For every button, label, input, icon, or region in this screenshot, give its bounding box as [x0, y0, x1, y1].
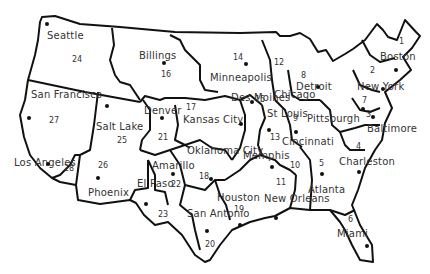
region-number: 24 — [72, 55, 82, 64]
city-marker-icon — [205, 229, 209, 233]
region-number: 18 — [199, 172, 209, 181]
city-label: Des Moines — [231, 92, 290, 103]
region-number: 26 — [98, 161, 108, 170]
city-label: Salt Lake — [96, 121, 143, 132]
region-number: 5 — [319, 159, 324, 168]
city-marker-icon — [239, 122, 243, 126]
region-number: 1 — [399, 37, 404, 46]
region-number: 27 — [49, 116, 59, 125]
city-marker-icon — [250, 100, 254, 104]
region-number: 6 — [348, 215, 353, 224]
region-number: 23 — [158, 210, 168, 219]
city-label: Miami — [337, 228, 368, 239]
city-label: Seattle — [47, 30, 84, 41]
city-marker-icon — [244, 62, 248, 66]
city-marker-icon — [209, 177, 213, 181]
region-number: 16 — [161, 70, 171, 79]
region-number: 25 — [117, 136, 127, 145]
city-label: Boston — [380, 51, 416, 62]
city-label: Kansas City — [183, 114, 243, 125]
city-marker-icon — [96, 176, 100, 180]
city-marker-icon — [270, 165, 274, 169]
city-marker-icon — [320, 172, 324, 176]
city-marker-icon — [45, 22, 49, 26]
city-marker-icon — [381, 87, 385, 91]
city-marker-icon — [371, 115, 375, 119]
region-number: 14 — [233, 53, 243, 62]
region-number: 2 — [370, 66, 375, 75]
city-marker-icon — [361, 107, 365, 111]
city-label: Billings — [139, 50, 176, 61]
city-marker-icon — [160, 116, 164, 120]
city-label: Houston — [217, 192, 260, 203]
region-number: 20 — [205, 240, 215, 249]
region-number: 12 — [274, 58, 284, 67]
region-number: 17 — [186, 103, 196, 112]
city-marker-icon — [357, 170, 361, 174]
city-marker-icon — [394, 68, 398, 72]
city-label: San Francisco — [31, 89, 102, 100]
city-marker-icon — [144, 202, 148, 206]
city-label: Denver — [144, 105, 182, 116]
city-label: Baltimore — [367, 123, 417, 134]
us-outline — [20, 16, 420, 262]
region-number: 7 — [362, 96, 367, 105]
region-number: 4 — [356, 142, 361, 151]
city-label: New Orleans — [264, 193, 330, 204]
city-label: Oklahoma City — [187, 145, 263, 156]
region-number: 8 — [301, 71, 306, 80]
region-number: 13 — [270, 133, 280, 142]
city-label: St Louis — [267, 108, 308, 119]
city-label: Charleston — [339, 156, 395, 167]
city-marker-icon — [316, 85, 320, 89]
city-label: Pittsburgh — [307, 113, 360, 124]
region-number: 10 — [290, 161, 300, 170]
region-number: 21 — [158, 133, 168, 142]
city-marker-icon — [365, 244, 369, 248]
city-marker-icon — [27, 116, 31, 120]
city-marker-icon — [274, 216, 278, 220]
city-marker-icon — [238, 223, 242, 227]
city-marker-icon — [105, 104, 109, 108]
region-number: 11 — [276, 178, 286, 187]
city-marker-icon — [46, 162, 50, 166]
city-marker-icon — [162, 61, 166, 65]
city-label: Minneapolis — [210, 72, 272, 83]
city-label: San Antonio — [187, 208, 250, 219]
city-label: Cincinnati — [282, 136, 334, 147]
city-label: Los Angeles — [14, 157, 76, 168]
city-label: El Paso — [137, 178, 174, 189]
city-marker-icon — [171, 172, 175, 176]
city-label: Phoenix — [88, 187, 129, 198]
city-marker-icon — [267, 128, 271, 132]
city-label: Amarillo — [152, 160, 195, 171]
city-marker-icon — [294, 130, 298, 134]
